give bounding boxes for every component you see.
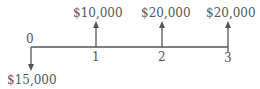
arrow-up-icon xyxy=(159,21,165,47)
period-label-2: 2 xyxy=(158,51,166,63)
period-label-1: 1 xyxy=(92,51,100,63)
cash-flow-amount-3: $20,000 xyxy=(206,7,256,19)
arrow-up-icon xyxy=(225,21,231,47)
arrow-down-icon xyxy=(28,47,34,71)
cash-flow-amount-2: $20,000 xyxy=(141,7,191,19)
arrow-up-icon xyxy=(93,21,99,47)
period-label-0: 0 xyxy=(26,33,34,45)
cash-flow-amount-0: $15,000 xyxy=(7,74,57,86)
period-label-3: 3 xyxy=(224,52,232,64)
cash-flow-amount-1: $10,000 xyxy=(73,7,123,19)
